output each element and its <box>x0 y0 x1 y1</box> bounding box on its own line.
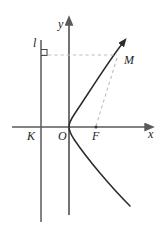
geometry-figure: y x O F M K l <box>0 0 164 237</box>
y-axis-label: y <box>57 17 64 31</box>
geometry-canvas: y x O F M K l <box>0 0 164 237</box>
origin-label: O <box>58 129 67 143</box>
parabola-curve <box>69 44 130 206</box>
m-to-focus-dashed-segment <box>96 58 117 126</box>
x-axis-label: x <box>147 127 154 141</box>
directrix-label: l <box>33 36 37 50</box>
point-m-label: M <box>123 53 135 67</box>
foot-k-label: K <box>26 129 36 143</box>
focus-label: F <box>91 129 100 143</box>
